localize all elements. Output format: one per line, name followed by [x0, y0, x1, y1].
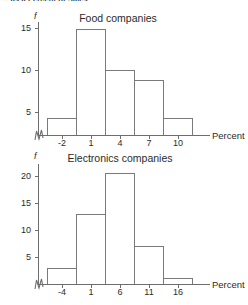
y-tick-electronics-20	[35, 176, 39, 177]
y-tick-food-15	[35, 28, 39, 29]
y-tick-electronics-10	[35, 230, 39, 231]
x-tick-label-electronics-4: 16	[167, 287, 189, 297]
bar-electronics-2	[105, 173, 135, 284]
x-tick-label-electronics-3: 11	[138, 287, 160, 297]
bar-electronics-0	[47, 268, 77, 284]
y-axis-title-food: f	[34, 11, 37, 21]
bar-food-1	[76, 29, 106, 135]
x-axis-title-electronics: Percent	[212, 279, 245, 290]
figure-container: ... as a Percent of Sales Food companies…	[0, 0, 248, 305]
x-tick-label-food-3: 7	[138, 138, 160, 148]
chart-food-companies: Food companies f 15 10 5	[0, 8, 248, 148]
y-tick-label-food-5: 5	[13, 107, 31, 117]
y-tick-label-electronics-10: 10	[13, 225, 31, 235]
x-axis-line-food	[38, 135, 210, 136]
x-tick-label-electronics-0: -4	[51, 287, 73, 297]
y-tick-label-food-10: 10	[13, 65, 31, 75]
x-tick-label-food-4: 10	[167, 138, 189, 148]
bar-food-3	[134, 80, 164, 135]
bar-electronics-1	[76, 214, 106, 284]
y-tick-food-5	[35, 112, 39, 113]
x-tick-label-food-0: -2	[51, 138, 73, 148]
x-tick-label-electronics-1: 1	[80, 287, 102, 297]
bar-food-4	[163, 118, 193, 135]
x-tick-label-electronics-2: 6	[109, 287, 131, 297]
y-tick-label-electronics-15: 15	[13, 198, 31, 208]
chart-title-food: Food companies	[58, 12, 178, 24]
y-tick-electronics-15	[35, 203, 39, 204]
bar-food-0	[47, 118, 77, 135]
y-tick-label-food-15: 15	[13, 23, 31, 33]
y-tick-label-electronics-5: 5	[13, 252, 31, 262]
y-tick-label-electronics-20: 20	[13, 171, 31, 181]
y-axis-line-food	[38, 22, 39, 135]
y-axis-line-electronics	[38, 164, 39, 284]
bar-electronics-3	[134, 246, 164, 284]
x-tick-label-food-2: 4	[109, 138, 131, 148]
x-tick-label-food-1: 1	[80, 138, 102, 148]
clipped-caption: ... as a Percent of Sales	[2, 0, 88, 1]
bar-food-2	[105, 70, 135, 135]
chart-electronics-companies: Electronics companies f 20 15 10 5	[0, 150, 248, 305]
y-tick-food-10	[35, 70, 39, 71]
y-tick-electronics-5	[35, 257, 39, 258]
x-axis-title-food: Percent	[212, 130, 245, 141]
y-axis-title-electronics: f	[34, 151, 37, 161]
x-axis-line-electronics	[38, 284, 210, 285]
chart-title-electronics: Electronics companies	[50, 152, 190, 164]
